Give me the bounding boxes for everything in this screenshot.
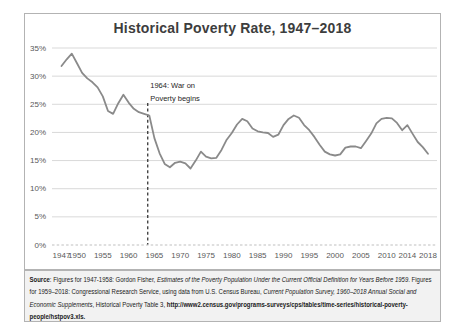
- poverty-rate-line: [62, 54, 429, 169]
- y-tick-label: 5%: [34, 212, 46, 221]
- x-tick-label: 2000: [326, 251, 344, 260]
- y-tick-label: 30%: [30, 72, 46, 81]
- x-tick-label: 1970: [171, 251, 189, 260]
- y-tick-label: 0%: [34, 241, 46, 250]
- y-tick-label: 20%: [30, 128, 46, 137]
- y-tick-label: 35%: [30, 44, 46, 53]
- x-tick-label: 2018: [419, 251, 437, 260]
- source-segment: Estimates of the Poverty Population Unde…: [157, 275, 408, 284]
- x-tick-label: 1980: [223, 251, 241, 260]
- x-tick-label: 1960: [120, 251, 138, 260]
- y-tick-label: 10%: [30, 184, 46, 193]
- x-tick-label: 2010: [378, 251, 396, 260]
- source-segment: , Historical Poverty Table 3,: [93, 300, 167, 309]
- x-tick-label: 1965: [146, 251, 164, 260]
- x-tick-label: 1985: [249, 251, 267, 260]
- x-tick-label: 2005: [352, 251, 370, 260]
- source-note-panel: Source: Figures for 1947-1958: Gordon Fi…: [24, 270, 441, 322]
- annotation-line2: Poverty begins: [150, 94, 200, 103]
- source-segment: : Figures for 1947-1958: Gordon Fisher,: [50, 275, 157, 284]
- x-tick-label: 1950: [68, 251, 86, 260]
- y-tick-label: 15%: [30, 156, 46, 165]
- x-tick-label: 1995: [300, 251, 318, 260]
- source-text: Source: Figures for 1947-1958: Gordon Fi…: [25, 271, 435, 322]
- x-tick-label: 1955: [94, 251, 112, 260]
- x-tick-label: 2014: [398, 251, 416, 260]
- chart-title: Historical Poverty Rate, 1947–2018: [24, 20, 441, 36]
- x-tick-label: 1975: [197, 251, 215, 260]
- source-segment: Source: [30, 275, 50, 284]
- poverty-rate-figure: 0%5%10%15%20%25%30%35%194719501955196019…: [0, 0, 463, 326]
- y-tick-label: 25%: [30, 100, 46, 109]
- x-tick-label: 1990: [275, 251, 293, 260]
- annotation-line1: 1964: War on: [150, 81, 195, 90]
